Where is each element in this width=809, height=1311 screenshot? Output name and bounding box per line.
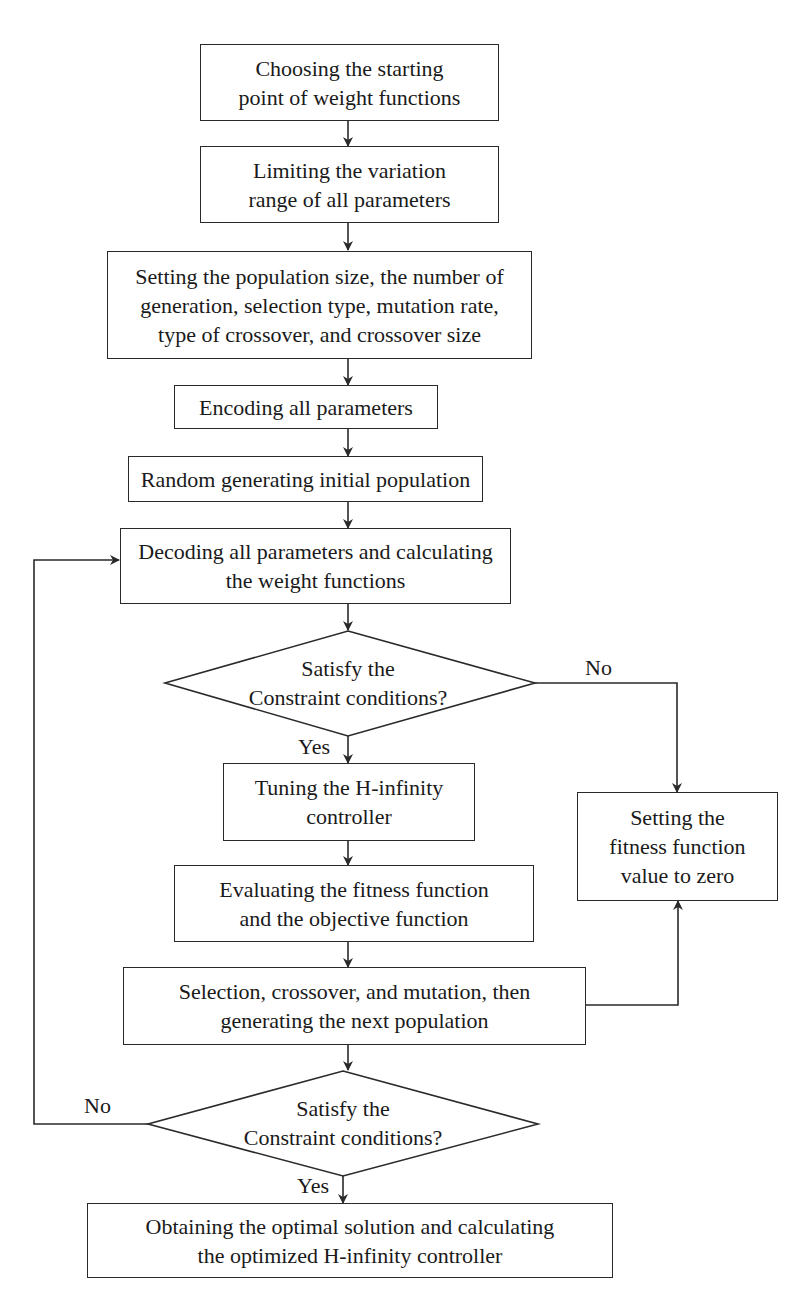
- step-text: generation, selection type, mutation rat…: [135, 291, 503, 320]
- edge-label-d2-no: No: [84, 1094, 111, 1118]
- step-text: the optimized H-infinity controller: [146, 1241, 555, 1270]
- arrow-select-zero: [585, 901, 678, 1005]
- step-tune: Tuning the H-infinitycontroller: [223, 763, 475, 841]
- step-text: Setting the: [609, 803, 745, 832]
- step-set-params: Setting the population size, the number …: [107, 251, 532, 359]
- edge-label-d1-no: No: [585, 656, 612, 680]
- step-text: point of weight functions: [239, 83, 461, 112]
- step-text: type of crossover, and crossover size: [135, 320, 503, 349]
- step-random-init: Random generating initial population: [128, 456, 483, 502]
- step-text: Satisfy the: [193, 1094, 493, 1123]
- step-text: controller: [255, 802, 444, 831]
- step-text: Satisfy the: [198, 654, 498, 683]
- decision-1-text: Satisfy the Constraint conditions?: [198, 654, 498, 712]
- step-evaluate: Evaluating the fitness functionand the o…: [174, 865, 534, 942]
- step-text: Tuning the H-infinity: [255, 773, 444, 802]
- arrow-d1-no: [535, 683, 677, 792]
- step-final: Obtaining the optimal solution and calcu…: [87, 1203, 613, 1278]
- step-decode: Decoding all parameters and calculatingt…: [120, 528, 511, 604]
- step-text: Decoding all parameters and calculating: [138, 537, 492, 566]
- step-choose-start: Choosing the startingpoint of weight fun…: [200, 44, 499, 121]
- step-selection: Selection, crossover, and mutation, then…: [123, 967, 586, 1045]
- step-text: Limiting the variation: [248, 156, 450, 185]
- step-text: Constraint conditions?: [198, 683, 498, 712]
- step-text: the weight functions: [138, 566, 492, 595]
- step-text: Selection, crossover, and mutation, then: [179, 977, 531, 1006]
- step-text: Constraint conditions?: [193, 1123, 493, 1152]
- step-text: Obtaining the optimal solution and calcu…: [146, 1212, 555, 1241]
- step-limit-range: Limiting the variationrange of all param…: [200, 146, 499, 223]
- edge-label-d1-yes: Yes: [298, 735, 330, 759]
- step-text: value to zero: [609, 861, 745, 890]
- step-text: Choosing the starting: [239, 54, 461, 83]
- step-text: range of all parameters: [248, 185, 450, 214]
- decision-2-text: Satisfy the Constraint conditions?: [193, 1094, 493, 1152]
- step-encode: Encoding all parameters: [174, 385, 438, 429]
- step-text: and the objective function: [219, 904, 488, 933]
- step-text: Evaluating the fitness function: [219, 875, 488, 904]
- step-text: Encoding all parameters: [199, 393, 413, 422]
- step-set-zero: Setting thefitness functionvalue to zero: [577, 792, 778, 901]
- step-text: Setting the population size, the number …: [135, 262, 503, 291]
- step-text: generating the next population: [179, 1006, 531, 1035]
- step-text: fitness function: [609, 832, 745, 861]
- step-text: Random generating initial population: [141, 465, 470, 494]
- edge-label-d2-yes: Yes: [297, 1174, 329, 1198]
